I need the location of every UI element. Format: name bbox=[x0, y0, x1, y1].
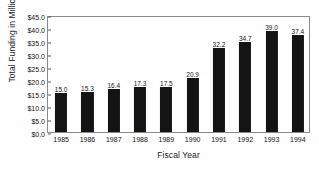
bar bbox=[160, 87, 172, 133]
plot-area: $0.0$5.0$10.0$15.0$20.0$25.0$30.0$35.0$4… bbox=[47, 16, 310, 133]
bar bbox=[187, 78, 199, 132]
y-axis-tick-label: $30.0 bbox=[1, 53, 45, 60]
y-axis-tick-label: $10.0 bbox=[1, 105, 45, 112]
x-axis-tick-label: 1989 bbox=[159, 136, 175, 143]
x-axis-tick-label: 1990 bbox=[185, 136, 201, 143]
y-axis-tick-mark bbox=[48, 43, 51, 44]
y-axis-tick-mark bbox=[48, 95, 51, 96]
y-axis-tick-label: $5.0 bbox=[1, 118, 45, 125]
bar-value-label: 16.4 bbox=[107, 82, 120, 89]
x-axis-tick-label: 1994 bbox=[290, 136, 306, 143]
y-axis-tick-mark bbox=[48, 134, 51, 135]
x-axis-tick-label: 1993 bbox=[264, 136, 280, 143]
y-axis-tick-mark bbox=[48, 30, 51, 31]
chart-screenshot: Total Funding in Millions $0.0$5.0$10.0$… bbox=[0, 0, 319, 170]
bar bbox=[266, 31, 278, 132]
bar bbox=[239, 42, 251, 132]
y-axis-tick-label: $0.0 bbox=[1, 131, 45, 138]
bar bbox=[55, 93, 67, 132]
bar-value-label: 17.3 bbox=[134, 80, 147, 87]
x-axis-title: Fiscal Year bbox=[47, 150, 310, 160]
x-axis-tick-label: 1988 bbox=[132, 136, 148, 143]
bar-value-label: 15.0 bbox=[55, 86, 68, 93]
x-axis-tick-label: 1987 bbox=[106, 136, 122, 143]
y-axis-tick-mark bbox=[48, 56, 51, 57]
bar-value-label: 15.3 bbox=[81, 85, 94, 92]
x-axis-tick-label: 1985 bbox=[53, 136, 69, 143]
y-axis-tick-label: $25.0 bbox=[1, 66, 45, 73]
bar bbox=[292, 35, 304, 132]
y-axis-tick-label: $20.0 bbox=[1, 79, 45, 86]
y-axis-tick-mark bbox=[48, 121, 51, 122]
y-axis-tick-label: $45.0 bbox=[1, 14, 45, 21]
y-axis-tick-label: $15.0 bbox=[1, 92, 45, 99]
bar-value-label: 20.9 bbox=[186, 71, 199, 78]
y-axis-tick-mark bbox=[48, 69, 51, 70]
bar-value-label: 17.5 bbox=[160, 80, 173, 87]
y-axis-tick-mark bbox=[48, 108, 51, 109]
y-axis-tick-mark bbox=[48, 17, 51, 18]
bar-value-label: 32.2 bbox=[213, 41, 226, 48]
x-axis-tick-label: 1986 bbox=[80, 136, 96, 143]
y-axis-tick-label: $40.0 bbox=[1, 27, 45, 34]
bar bbox=[81, 92, 93, 132]
bar-value-label: 37.4 bbox=[292, 28, 305, 35]
y-axis-tick-label: $35.0 bbox=[1, 40, 45, 47]
bar bbox=[108, 89, 120, 132]
x-axis-tick-label: 1991 bbox=[211, 136, 227, 143]
bar bbox=[213, 48, 225, 132]
bar-value-label: 34.7 bbox=[239, 35, 252, 42]
bar-value-label: 39.0 bbox=[265, 24, 278, 31]
x-axis-tick-label: 1992 bbox=[237, 136, 253, 143]
y-axis-tick-mark bbox=[48, 82, 51, 83]
bar bbox=[134, 87, 146, 132]
